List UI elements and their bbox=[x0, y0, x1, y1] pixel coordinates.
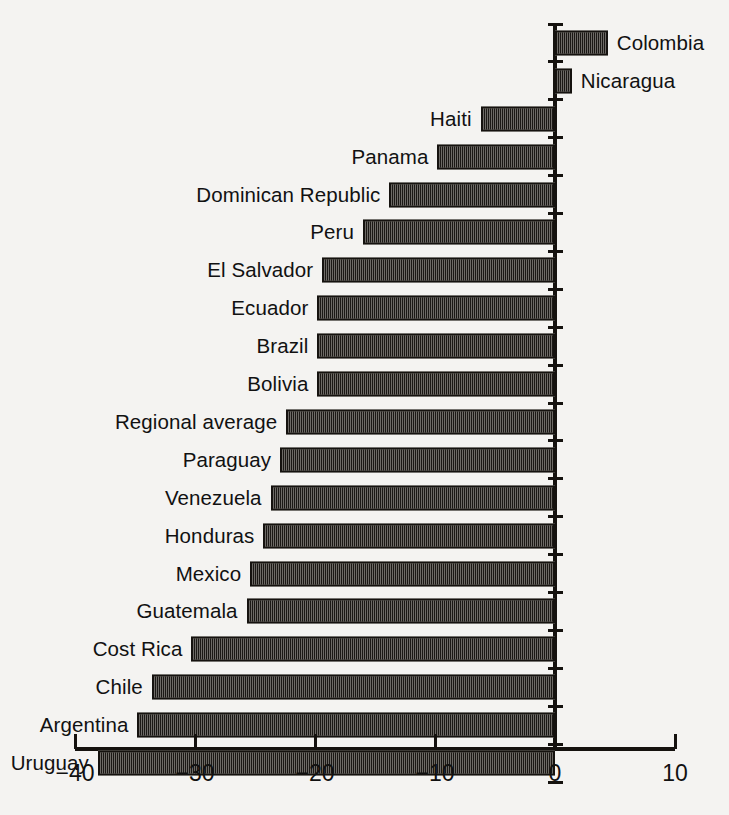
bar-category-label: Venezuela bbox=[165, 486, 262, 510]
x-axis-tick-label: −40 bbox=[55, 760, 94, 787]
bar-category-label: Panama bbox=[351, 145, 428, 169]
x-axis-tick bbox=[194, 734, 197, 749]
bar-category-label: Argentina bbox=[40, 713, 129, 737]
bar-category-label: Chile bbox=[96, 675, 143, 699]
bar-category-label: Dominican Republic bbox=[196, 183, 380, 207]
bar bbox=[389, 182, 555, 207]
x-axis-tick-label: −10 bbox=[415, 760, 454, 787]
x-axis-tick bbox=[74, 734, 77, 749]
bar-row: El Salvador bbox=[0, 251, 729, 289]
bar-row: Mexico bbox=[0, 555, 729, 593]
bar-row: Guatemala bbox=[0, 593, 729, 631]
bar-category-label: Paraguay bbox=[183, 448, 272, 472]
bar-category-label: Haiti bbox=[430, 107, 472, 131]
bar-category-label: Nicaragua bbox=[581, 69, 675, 93]
bar-category-label: Bolivia bbox=[247, 372, 308, 396]
bar bbox=[555, 30, 608, 55]
bar-row: Nicaragua bbox=[0, 62, 729, 100]
bar-row: Chile bbox=[0, 668, 729, 706]
bar-category-label: Cost Rica bbox=[93, 637, 183, 661]
bar bbox=[191, 637, 555, 662]
x-axis-tick-label: 0 bbox=[549, 760, 562, 787]
bar-chart-figure: ColombiaNicaraguaHaitiPanamaDominican Re… bbox=[0, 0, 729, 815]
bar-category-label: Mexico bbox=[176, 562, 242, 586]
bar-category-label: Ecuador bbox=[231, 296, 308, 320]
bar-row: Colombia bbox=[0, 24, 729, 62]
bar bbox=[263, 523, 555, 548]
bar bbox=[317, 372, 555, 397]
bar bbox=[317, 334, 555, 359]
bar bbox=[437, 144, 555, 169]
bar-row: Ecuador bbox=[0, 289, 729, 327]
bar bbox=[555, 68, 572, 93]
x-axis-tick-label: −20 bbox=[295, 760, 334, 787]
bar-category-label: El Salvador bbox=[207, 258, 313, 282]
bar bbox=[481, 106, 555, 131]
bar-row: Honduras bbox=[0, 517, 729, 555]
bar bbox=[280, 447, 555, 472]
bar bbox=[317, 296, 555, 321]
bar bbox=[250, 561, 555, 586]
bar-row: Argentina bbox=[0, 706, 729, 744]
bar-row: Regional average bbox=[0, 403, 729, 441]
x-axis-tick bbox=[434, 734, 437, 749]
bar bbox=[137, 713, 555, 738]
bar-category-label: Colombia bbox=[617, 31, 704, 55]
bar-row: Bolivia bbox=[0, 365, 729, 403]
bar-category-label: Brazil bbox=[257, 334, 309, 358]
bar-row: Dominican Republic bbox=[0, 176, 729, 214]
bar-row: Panama bbox=[0, 138, 729, 176]
x-axis-tick-label: −30 bbox=[175, 760, 214, 787]
bar-row: Peru bbox=[0, 214, 729, 252]
bar-category-label: Regional average bbox=[115, 410, 277, 434]
bar-category-label: Guatemala bbox=[136, 599, 237, 623]
bar-row: Brazil bbox=[0, 327, 729, 365]
bar-row: Venezuela bbox=[0, 479, 729, 517]
x-axis-tick bbox=[554, 734, 557, 749]
bar bbox=[247, 599, 555, 624]
bar bbox=[363, 220, 555, 245]
x-axis-tick bbox=[674, 734, 677, 749]
x-axis-tick bbox=[314, 734, 317, 749]
plot-area: ColombiaNicaraguaHaitiPanamaDominican Re… bbox=[0, 0, 729, 815]
bar bbox=[286, 409, 555, 434]
x-axis-tick-label: 10 bbox=[662, 760, 688, 787]
bar-row: Haiti bbox=[0, 100, 729, 138]
bar-row: Paraguay bbox=[0, 441, 729, 479]
bar-category-label: Peru bbox=[310, 220, 354, 244]
bar-row: Cost Rica bbox=[0, 630, 729, 668]
bar-row: Uruguay bbox=[0, 744, 729, 782]
bar bbox=[322, 258, 555, 283]
bar bbox=[271, 485, 555, 510]
bar-category-label: Honduras bbox=[165, 524, 255, 548]
bar bbox=[152, 675, 555, 700]
